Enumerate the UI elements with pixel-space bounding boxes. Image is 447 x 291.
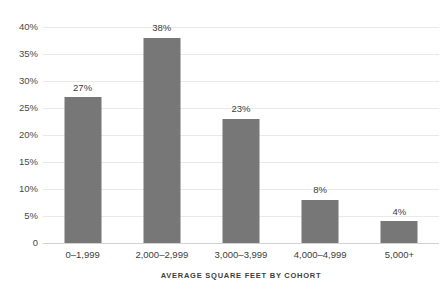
bar-slot: 8% — [281, 27, 360, 243]
x-axis-title: AVERAGE SQUARE FEET BY COHORT — [43, 271, 439, 280]
y-axis-tick-label: 0 — [0, 238, 38, 248]
bar-chart: 05%10%15%20%25%30%35%40% 27%38%23%8%4% 0… — [0, 0, 447, 291]
y-axis-tick-label: 25% — [0, 103, 38, 113]
bar-value-label: 8% — [313, 185, 327, 195]
bar-slot: 4% — [360, 27, 439, 243]
x-axis-tick-label: 0–1,999 — [65, 250, 99, 260]
y-axis-tick-label: 30% — [0, 76, 38, 86]
bar-value-label: 38% — [152, 23, 171, 33]
x-axis-tick-label: 5,000+ — [385, 250, 414, 260]
y-axis-tick-label: 35% — [0, 49, 38, 59]
axis-baseline — [43, 243, 439, 244]
bar-slot: 23% — [201, 27, 280, 243]
y-axis-tick-label: 5% — [0, 211, 38, 221]
bar[interactable] — [64, 97, 101, 243]
bar-slot: 38% — [122, 27, 201, 243]
x-axis-tick-label: 2,000–2,999 — [135, 250, 188, 260]
bar[interactable] — [302, 200, 339, 243]
bar[interactable] — [222, 119, 259, 243]
bar-value-label: 27% — [73, 83, 92, 93]
x-axis-tick-label: 4,000–4,999 — [294, 250, 347, 260]
plot-area: 05%10%15%20%25%30%35%40% 27%38%23%8%4% — [43, 27, 439, 243]
bar-slot: 27% — [43, 27, 122, 243]
bar[interactable] — [381, 221, 418, 243]
y-axis-tick-label: 10% — [0, 184, 38, 194]
y-axis-tick-label: 20% — [0, 130, 38, 140]
x-axis-tick-labels: 0–1,9992,000–2,9993,000–3,9994,000–4,999… — [43, 250, 439, 264]
bar[interactable] — [143, 38, 180, 243]
x-axis-tick-label: 3,000–3,999 — [215, 250, 268, 260]
bars-group: 27%38%23%8%4% — [43, 27, 439, 243]
y-axis-tick-label: 40% — [0, 22, 38, 32]
bar-value-label: 23% — [231, 104, 250, 114]
bar-value-label: 4% — [393, 207, 407, 217]
y-axis-tick-label: 15% — [0, 157, 38, 167]
